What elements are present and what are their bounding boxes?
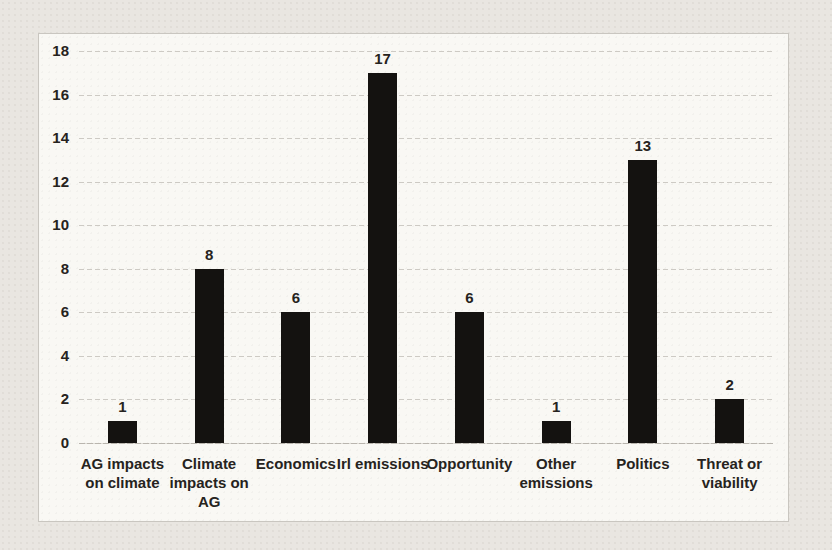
bar [542, 421, 571, 443]
y-axis-tick-label: 14 [39, 129, 71, 147]
bar [368, 73, 397, 443]
bar [715, 399, 744, 443]
scanned-page: 0246810121416181AG impacts on climate8Cl… [0, 0, 832, 550]
gridline [79, 182, 773, 183]
bar-value-label: 1 [516, 398, 596, 416]
x-axis-category-label: Politics [596, 454, 690, 473]
x-axis-category-label: Opportunity [422, 454, 516, 473]
y-axis-tick-label: 12 [39, 173, 71, 191]
bar-value-label: 8 [169, 246, 249, 264]
bar-value-label: 6 [429, 289, 509, 307]
bar [455, 312, 484, 443]
bar [108, 421, 137, 443]
bar-value-label: 13 [603, 137, 683, 155]
x-axis-category-label: Economics [249, 454, 343, 473]
gridline [79, 312, 773, 313]
x-axis-category-label: Other emissions [509, 454, 603, 492]
x-axis-category-label: Irl emissions [336, 454, 430, 473]
bar-value-label: 17 [343, 50, 423, 68]
y-axis-tick-label: 10 [39, 216, 71, 234]
bar [195, 269, 224, 443]
bar-value-label: 6 [256, 289, 336, 307]
x-axis-category-label: AG impacts on climate [75, 454, 169, 492]
gridline [79, 269, 773, 270]
gridline [79, 356, 773, 357]
y-axis-tick-label: 2 [39, 390, 71, 408]
bar [628, 160, 657, 443]
gridline [79, 399, 773, 400]
gridline [79, 95, 773, 96]
x-axis-category-label: Threat or viability [683, 454, 777, 492]
bar-chart: 0246810121416181AG impacts on climate8Cl… [38, 33, 789, 522]
bar [281, 312, 310, 443]
bar-value-label: 1 [82, 398, 162, 416]
y-axis-tick-label: 4 [39, 347, 71, 365]
x-axis-line [79, 443, 773, 444]
y-axis-tick-label: 6 [39, 303, 71, 321]
y-axis-tick-label: 16 [39, 86, 71, 104]
bar-value-label: 2 [690, 376, 770, 394]
gridline [79, 225, 773, 226]
y-axis-tick-label: 8 [39, 260, 71, 278]
x-axis-category-label: Climate impacts on AG [162, 454, 256, 511]
y-axis-tick-label: 0 [39, 434, 71, 452]
gridline [79, 51, 773, 52]
y-axis-tick-label: 18 [39, 42, 71, 60]
